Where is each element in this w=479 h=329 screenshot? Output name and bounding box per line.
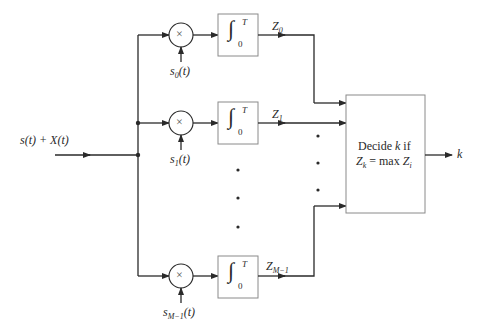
reference-label-1: s1(t) xyxy=(170,153,190,168)
ellipsis-dots xyxy=(236,134,319,228)
integral-icon: ∫T0 xyxy=(228,260,234,282)
multiply-icon: × xyxy=(176,28,183,40)
multiply-icon: × xyxy=(176,116,183,128)
decision-rule-line2: Zk = max Zi xyxy=(356,155,412,170)
output-label-m-1: ZM−1 xyxy=(266,260,289,275)
integral-icon: ∫T0 xyxy=(228,106,234,128)
branch-0 xyxy=(138,14,346,103)
output-label-0: Z0 xyxy=(272,20,283,35)
decision-rule-line1: Decide k if xyxy=(358,140,411,152)
integrator-box xyxy=(218,14,258,56)
input-label: s(t) + X(t) xyxy=(20,134,69,146)
multiply-icon: × xyxy=(176,269,183,281)
output-label-k: k xyxy=(457,148,462,160)
correlation-receiver-diagram: s(t) + X(t) × × × s0(t) s1(t) sM−1(t) ∫T… xyxy=(0,0,479,329)
input-line xyxy=(55,153,140,157)
output-label-1: Z1 xyxy=(272,108,283,123)
integrator-box xyxy=(218,256,258,298)
reference-label-0: s0(t) xyxy=(170,65,190,80)
reference-label-m-1: sM−1(t) xyxy=(163,306,195,321)
integral-icon: ∫T0 xyxy=(228,18,234,40)
integrator-box xyxy=(218,102,258,144)
